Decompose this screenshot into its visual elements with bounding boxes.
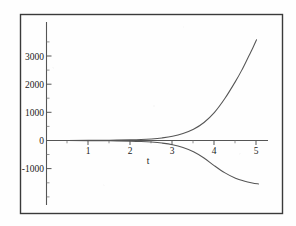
y-tick-label-0: 0 <box>39 136 44 146</box>
y-tick-label-3000: 3000 <box>25 52 44 62</box>
y-tick-label-1000: 1000 <box>25 108 44 118</box>
x-tick-labels: 1 2 3 4 5 <box>86 146 259 156</box>
series-line-rising-exponential <box>47 40 257 141</box>
plot-frame <box>21 15 283 214</box>
x-tick-label-1: 1 <box>86 146 91 156</box>
x-tick-label-2: 2 <box>128 146 133 156</box>
x-tick-label-5: 5 <box>254 146 259 156</box>
y-tick-label-2000: 2000 <box>25 80 44 90</box>
y-tick-label-minus-1000: -1000 <box>22 164 44 174</box>
x-tick-label-3: 3 <box>170 146 175 156</box>
chart-figure: 3000 2000 1000 0 -1000 1 2 3 4 5 t <box>0 0 296 226</box>
x-axis-label: t <box>147 156 150 166</box>
plot-canvas: 3000 2000 1000 0 -1000 1 2 3 4 5 t <box>0 0 296 226</box>
series-line-falling-exponential <box>47 141 259 184</box>
x-tick-label-4: 4 <box>212 146 217 156</box>
y-axis-major-ticks <box>47 56 52 169</box>
y-tick-labels: 3000 2000 1000 0 -1000 <box>22 52 44 175</box>
